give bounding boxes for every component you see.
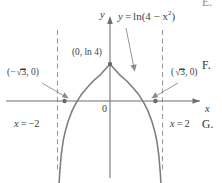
equation-lhs: y — [118, 10, 123, 22]
leader-arrowhead-right-root — [151, 92, 158, 98]
left-root-radical: √3 — [15, 68, 26, 77]
peak-point-label: (0, ln 4) — [72, 48, 102, 57]
asymptote-label-left: x=−2 — [14, 119, 40, 129]
leader-line-equation — [126, 28, 134, 68]
leader-line-right-root — [154, 83, 178, 97]
margin-marker-f[interactable]: F. — [202, 59, 211, 71]
point-peak — [108, 62, 112, 66]
asymptote-left-var: x — [14, 118, 19, 129]
right-root-radical: √3 — [174, 68, 185, 77]
asymptote-left-eq: = — [21, 118, 27, 129]
point-left-root — [62, 99, 66, 103]
radical-bar-left — [20, 69, 26, 70]
radical-bar-right — [179, 69, 185, 70]
margin-marker-g[interactable]: G. — [202, 118, 214, 130]
leader-arrowhead-left-root — [62, 92, 69, 98]
x-axis-label: x — [205, 104, 210, 115]
x-axis-arrowhead — [193, 98, 201, 104]
point-right-root — [153, 99, 157, 103]
equation-label: y=ln(4 − x2) — [118, 11, 175, 22]
origin-label: 0 — [102, 104, 107, 114]
equation-fn: ln(4 − x — [133, 10, 168, 22]
y-axis-arrowhead — [107, 16, 113, 24]
asymptote-left-val: −2 — [29, 118, 40, 129]
y-axis-label: y — [100, 10, 105, 21]
leader-line-left-root — [42, 83, 66, 97]
graph-figure — [0, 0, 222, 183]
asymptote-label-right: x=2 — [170, 119, 190, 129]
left-root-rest: , 0) — [26, 67, 39, 77]
margin-marker-e[interactable]: E. — [202, 0, 212, 8]
asymptote-right-val: 2 — [185, 118, 190, 129]
asymptote-right-var: x — [170, 118, 175, 129]
left-root-label: (−√3, 0) — [7, 68, 39, 77]
right-root-label: (√3, 0) — [171, 68, 197, 77]
right-root-rest: , 0) — [185, 67, 198, 77]
equation-equals: = — [125, 10, 131, 22]
asymptote-right-eq: = — [177, 118, 183, 129]
leader-arrowhead-equation — [130, 64, 136, 71]
equation-close: ) — [171, 10, 175, 22]
